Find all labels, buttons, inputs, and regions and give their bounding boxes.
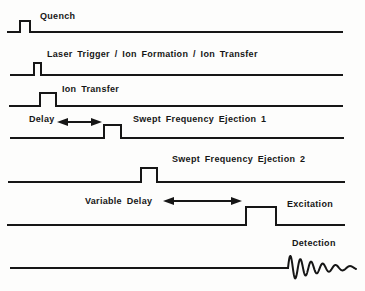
swept-frequency-ejection-2-label: Swept Frequency Ejection 2 (172, 154, 305, 164)
quench-pulse (19, 20, 31, 33)
timing-diagram: QuenchLaser Trigger / Ion Formation / Io… (0, 0, 365, 291)
swept-frequency-ejection-1-arrow-head-left (57, 118, 68, 126)
swept-frequency-ejection-1-pulse (103, 124, 122, 139)
swept-frequency-ejection-1-label-1: Delay (29, 114, 55, 124)
quench-label: Quench (40, 11, 75, 21)
excitation-baseline (7, 224, 345, 226)
excitation-pulse (245, 206, 277, 226)
excitation-label-1: Variable Delay (85, 196, 152, 206)
excitation-arrow-head-right (231, 197, 242, 205)
excitation-arrow-head-left (163, 197, 174, 205)
laser-trigger-ion-formation-ion-transfer-baseline (10, 74, 343, 76)
swept-frequency-ejection-1-delay-arrow (66, 121, 93, 123)
laser-trigger-ion-formation-ion-transfer-label: Laser Trigger / Ion Formation / Ion Tran… (47, 49, 258, 59)
swept-frequency-ejection-1-label-2: Swept Frequency Ejection 1 (133, 114, 266, 124)
ion-transfer-label: Ion Transfer (62, 84, 119, 94)
ion-transfer-pulse (39, 92, 57, 107)
detection-label: Detection (292, 238, 336, 248)
excitation-delay-arrow (172, 200, 233, 202)
ion-transfer-baseline (9, 105, 343, 107)
laser-trigger-ion-formation-ion-transfer-pulse (33, 62, 42, 76)
swept-frequency-ejection-1-baseline (10, 137, 344, 139)
detection-baseline (10, 267, 289, 269)
detection-fid-waveform (288, 246, 360, 290)
swept-frequency-ejection-2-pulse (140, 167, 158, 183)
quench-baseline (7, 31, 343, 33)
excitation-label-2: Excitation (287, 199, 333, 209)
swept-frequency-ejection-2-baseline (8, 181, 345, 183)
swept-frequency-ejection-1-arrow-head-right (91, 118, 102, 126)
